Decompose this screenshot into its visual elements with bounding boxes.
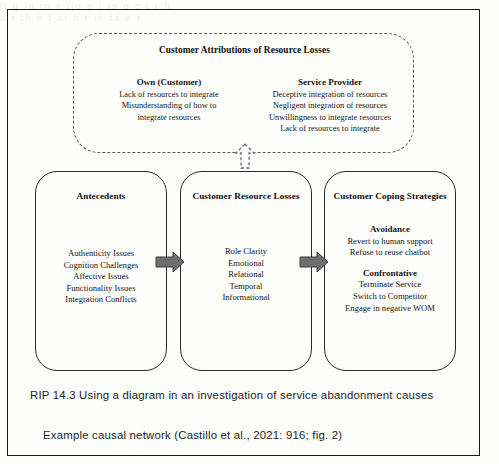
coping-avoidance-line-1: Revert to human support	[329, 236, 451, 248]
figure-caption-example: Example causal network (Castillo et al.,…	[43, 429, 342, 441]
stage-body-customer-coping-strategies: Avoidance Revert to human support Refuse…	[329, 224, 451, 314]
stage-title-antecedents: Antecedents	[36, 191, 166, 201]
attributions-own-line-1: Lack of resources to integrate	[88, 89, 250, 100]
arrow-antecedents-to-losses-icon	[155, 251, 185, 273]
coping-confrontative-line-3: Engage in negative WOM	[329, 303, 451, 315]
stage-box-customer-resource-losses: Customer Resource Losses Role Clarity Em…	[180, 171, 312, 371]
attributions-provider-heading: Service Provider	[250, 77, 410, 88]
attributions-provider-line-3: Unwillingness to integrate resources	[250, 112, 410, 123]
stage-title-customer-resource-losses: Customer Resource Losses	[181, 191, 311, 201]
stage-box-antecedents: Antecedents Authenticity Issues Cognitio…	[35, 171, 167, 371]
attributions-column-own: Own (Customer) Lack of resources to inte…	[88, 77, 250, 123]
attributions-own-heading: Own (Customer)	[88, 77, 250, 88]
coping-group-spacer	[329, 259, 451, 268]
stage-title-customer-coping-strategies: Customer Coping Strategies	[325, 191, 455, 201]
coping-confrontative-line-2: Switch to Competitor	[329, 291, 451, 303]
antecedents-line-3: Affective Issues	[40, 271, 162, 283]
attributions-own-line-2: Misunderstanding of how to	[88, 100, 250, 111]
attributions-provider-line-1: Deceptive integration of resources	[250, 89, 410, 100]
stage-body-antecedents: Authenticity Issues Cognition Challenges…	[40, 248, 162, 306]
stage-body-customer-resource-losses: Role Clarity Emotional Relational Tempor…	[185, 246, 307, 304]
attributions-provider-line-4: Lack of resources to integrate	[250, 123, 410, 134]
coping-avoidance-line-2: Refuse to reuse chatbot	[329, 247, 451, 259]
coping-confrontative-heading: Confrontative	[329, 268, 451, 280]
antecedents-line-1: Authenticity Issues	[40, 248, 162, 260]
antecedents-line-5: Integration Conflicts	[40, 294, 162, 306]
losses-line-2: Emotional	[185, 258, 307, 270]
antecedents-line-4: Functionality Issues	[40, 283, 162, 295]
attributions-title: Customer Attributions of Resource Losses	[74, 45, 415, 55]
arrow-losses-to-attributions-icon	[234, 143, 256, 169]
attributions-column-service-provider: Service Provider Deceptive integration o…	[250, 77, 410, 134]
losses-line-5: Informational	[185, 292, 307, 304]
losses-line-3: Relational	[185, 269, 307, 281]
coping-confrontative-line-1: Terminate Service	[329, 279, 451, 291]
stage-box-customer-coping-strategies: Customer Coping Strategies Avoidance Rev…	[324, 171, 456, 371]
losses-line-1: Role Clarity	[185, 246, 307, 258]
attributions-dashed-box: Customer Attributions of Resource Losses…	[73, 33, 414, 153]
figure-page: it g in in a tio o r in o c t r h o r th…	[0, 0, 499, 464]
attributions-provider-line-2: Negligent integration of resources	[250, 100, 410, 111]
coping-avoidance-heading: Avoidance	[329, 224, 451, 236]
figure-caption-rip: RIP 14.3 Using a diagram in an investiga…	[30, 389, 433, 401]
arrow-losses-to-coping-icon	[299, 251, 329, 273]
losses-line-4: Temporal	[185, 281, 307, 293]
attributions-own-line-3: integrate resources	[88, 112, 250, 123]
antecedents-line-2: Cognition Challenges	[40, 260, 162, 272]
